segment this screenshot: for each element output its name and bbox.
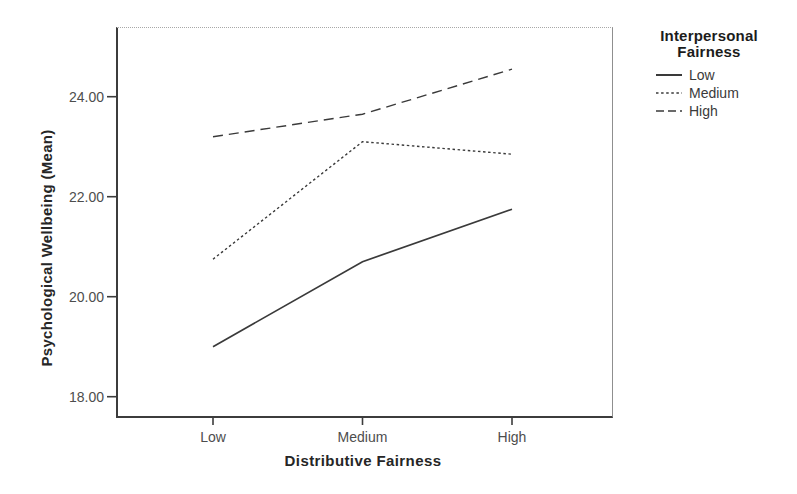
legend-entry-label: Medium: [689, 84, 739, 102]
legend: Interpersonal Fairness LowMediumHigh: [646, 28, 786, 120]
legend-entry: Medium: [655, 84, 786, 102]
x-tick-label: High: [467, 428, 557, 446]
spss-line-chart-figure: Psychological Wellbeing (Mean) 18.0020.0…: [0, 0, 797, 494]
y-tick-label: 24.00: [38, 88, 104, 106]
y-axis-title: Psychological Wellbeing (Mean): [38, 129, 55, 366]
legend-swatch-dashed-line-icon: [655, 108, 683, 114]
legend-title-line-1: Interpersonal: [646, 28, 772, 44]
legend-entry: Low: [655, 66, 786, 84]
y-tick-label: 22.00: [38, 188, 104, 206]
legend-title: Interpersonal Fairness: [646, 28, 772, 60]
legend-entries: LowMediumHigh: [646, 66, 786, 120]
legend-entry-label: Low: [689, 66, 715, 84]
legend-entry: High: [655, 102, 786, 120]
legend-entry-label: High: [689, 102, 718, 120]
y-tick-label: 20.00: [38, 288, 104, 306]
x-axis-title: Distributive Fairness: [285, 452, 442, 469]
plot-area: [116, 27, 613, 418]
x-tick-label: Medium: [318, 428, 408, 446]
legend-swatch-solid-line-icon: [655, 72, 683, 78]
legend-swatch-dotted-line-icon: [655, 90, 683, 96]
y-tick-label: 18.00: [38, 388, 104, 406]
x-tick-label: Low: [168, 428, 258, 446]
legend-title-line-2: Fairness: [646, 44, 772, 60]
